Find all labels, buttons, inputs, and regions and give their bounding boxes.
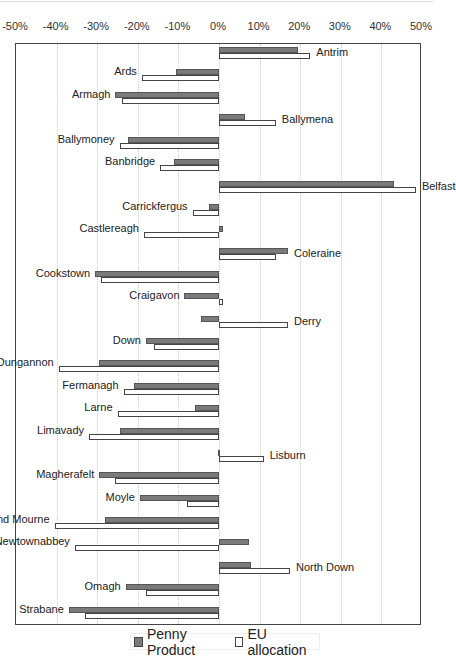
bar-row: Armagh xyxy=(16,92,420,114)
bar-row: Craigavon xyxy=(16,293,420,315)
category-label: Ards xyxy=(114,65,137,77)
legend-label-eu-allocation: EU allocation xyxy=(247,626,319,658)
bar-eu-allocation xyxy=(85,613,219,619)
category-label: Newry and Mourne xyxy=(0,513,50,525)
bar-eu-allocation xyxy=(89,434,219,440)
category-label: Limavady xyxy=(37,424,84,436)
category-label: Magherafelt xyxy=(36,468,94,480)
category-label: Coleraine xyxy=(294,247,341,259)
bar-eu-allocation xyxy=(115,478,219,484)
x-tick-label: -50% xyxy=(2,20,28,32)
x-tick-label: 40% xyxy=(369,20,391,32)
bar-eu-allocation xyxy=(219,254,276,260)
category-label: Newtownabbey xyxy=(0,535,70,547)
category-label: Cookstown xyxy=(36,267,90,279)
bar-eu-allocation xyxy=(101,277,219,283)
bar-eu-allocation xyxy=(118,411,220,417)
x-tick-label: 20% xyxy=(288,20,310,32)
bar-row: Limavady xyxy=(16,428,420,450)
category-label: Antrim xyxy=(316,46,348,58)
legend-swatch-penny-product xyxy=(134,637,143,647)
bar-eu-allocation xyxy=(154,344,219,350)
bar-row: Castlereagh xyxy=(16,226,420,248)
bar-row: Banbridge xyxy=(16,159,420,181)
category-label: Lisburn xyxy=(270,449,306,461)
bar-row: North Down xyxy=(16,562,420,584)
bar-eu-allocation xyxy=(120,143,219,149)
bar-eu-allocation xyxy=(160,165,219,171)
category-label: Armagh xyxy=(72,88,111,100)
bar-eu-allocation xyxy=(219,322,288,328)
x-tick-label: 50% xyxy=(410,20,432,32)
bar-eu-allocation xyxy=(59,366,219,372)
bar-eu-allocation xyxy=(75,545,219,551)
category-label: Belfast xyxy=(422,180,456,192)
x-tick-label: 10% xyxy=(248,20,270,32)
category-label: North Down xyxy=(296,561,354,573)
category-label: Dungannon xyxy=(0,356,54,368)
category-label: Strabane xyxy=(19,603,64,615)
bar-eu-allocation xyxy=(55,523,219,529)
bar-eu-allocation xyxy=(219,568,290,574)
plot-area: AntrimArdsArmaghBallymenaBallymoneyBanbr… xyxy=(15,43,421,625)
bar-eu-allocation xyxy=(122,98,219,104)
category-label: Down xyxy=(113,334,141,346)
bar-row: Newtownabbey xyxy=(16,539,420,561)
x-axis-ticks: -50%-40%-30%-20%-10%0%10%20%30%40%50% xyxy=(0,20,433,34)
x-tick-label: 0% xyxy=(210,20,226,32)
legend-swatch-eu-allocation xyxy=(235,637,244,647)
bar-penny-product xyxy=(201,316,219,322)
x-tick-label: -20% xyxy=(124,20,150,32)
bar-eu-allocation xyxy=(219,53,310,59)
category-label: Ballymena xyxy=(282,113,333,125)
category-label: Fermanagh xyxy=(62,379,118,391)
x-tick-label: -30% xyxy=(83,20,109,32)
bar-penny-product xyxy=(219,539,249,545)
category-label: Larne xyxy=(84,401,112,413)
bar-eu-allocation xyxy=(124,389,219,395)
bar-row: Moyle xyxy=(16,495,420,517)
bar-penny-product xyxy=(219,226,223,232)
x-tick-label: 30% xyxy=(329,20,351,32)
bar-row: Fermanagh xyxy=(16,383,420,405)
category-label: Carrickfergus xyxy=(122,200,187,212)
bar-penny-product xyxy=(184,293,219,299)
category-label: Craigavon xyxy=(129,289,179,301)
bar-eu-allocation xyxy=(187,501,219,507)
category-label: Derry xyxy=(294,315,321,327)
bar-eu-allocation xyxy=(146,590,219,596)
category-label: Banbridge xyxy=(105,155,155,167)
bar-eu-allocation xyxy=(193,210,219,216)
category-label: Ballymoney xyxy=(58,133,115,145)
legend-label-penny-product: Penny Product xyxy=(147,626,227,658)
bar-row: Down xyxy=(16,338,420,360)
bar-row: Carrickfergus xyxy=(16,204,420,226)
bar-row: Omagh xyxy=(16,584,420,606)
category-label: Omagh xyxy=(85,580,121,592)
bar-row: Magherafelt xyxy=(16,472,420,494)
top-rule xyxy=(0,1,433,2)
category-label: Castlereagh xyxy=(80,222,139,234)
bar-eu-allocation xyxy=(144,232,219,238)
bar-row: Belfast xyxy=(16,181,420,203)
bar-row: Derry xyxy=(16,316,420,338)
category-label: Moyle xyxy=(106,491,135,503)
bar-eu-allocation xyxy=(219,299,223,305)
x-tick-label: -10% xyxy=(165,20,191,32)
bar-eu-allocation xyxy=(219,120,276,126)
bar-row: Ballymoney xyxy=(16,137,420,159)
bar-eu-allocation xyxy=(219,456,264,462)
bar-row: Newry and Mourne xyxy=(16,517,420,539)
bar-eu-allocation xyxy=(219,187,416,193)
legend: Penny Product EU allocation xyxy=(130,633,320,650)
bar-eu-allocation xyxy=(142,75,219,81)
bar-row: Cookstown xyxy=(16,271,420,293)
bar-row: Antrim xyxy=(16,47,420,69)
x-tick-label: -40% xyxy=(43,20,69,32)
